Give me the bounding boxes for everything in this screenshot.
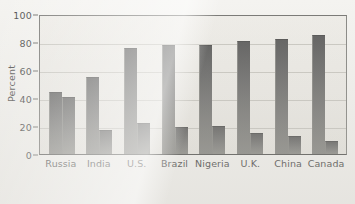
- plot-area: [39, 15, 347, 155]
- bar-group: [43, 16, 81, 154]
- y-tick-label: 60: [6, 66, 32, 77]
- x-tick-label: Russia: [42, 158, 80, 169]
- bar-group: [118, 16, 156, 154]
- bar: [237, 41, 250, 154]
- bar-group: [156, 16, 194, 154]
- y-axis-tick-labels: 020406080100: [4, 0, 32, 204]
- y-tick-label: 20: [6, 122, 32, 133]
- bar: [124, 48, 137, 154]
- bar: [325, 141, 338, 154]
- bar: [49, 92, 62, 154]
- bar: [137, 123, 150, 154]
- y-tick-mark: [33, 43, 38, 44]
- y-tick-mark: [33, 99, 38, 100]
- y-tick-mark: [33, 15, 38, 16]
- bar: [162, 45, 175, 154]
- bar: [312, 35, 325, 154]
- x-tick-label: Canada: [307, 158, 345, 169]
- bar: [62, 97, 75, 154]
- bar-group: [231, 16, 269, 154]
- y-tick-mark: [33, 71, 38, 72]
- bar-group: [81, 16, 119, 154]
- bar-group: [306, 16, 344, 154]
- bar: [86, 77, 99, 154]
- bar: [99, 130, 112, 154]
- x-tick-label: U.K.: [231, 158, 269, 169]
- bar-group: [269, 16, 307, 154]
- y-tick-label: 40: [6, 94, 32, 105]
- bar: [175, 127, 188, 154]
- bar-group: [194, 16, 232, 154]
- y-tick-label: 0: [6, 150, 32, 161]
- y-tick-mark: [33, 127, 38, 128]
- y-tick-label: 80: [6, 38, 32, 49]
- bar: [199, 45, 212, 154]
- bar-groups: [40, 16, 346, 154]
- y-tick-label: 100: [6, 10, 32, 21]
- y-tick-mark: [33, 155, 38, 156]
- bar: [275, 39, 288, 154]
- x-axis-tick-labels: RussiaIndiaU.S.BrazilNigeriaU.K.ChinaCan…: [39, 158, 347, 169]
- x-tick-label: U.S.: [118, 158, 156, 169]
- x-tick-label: Nigeria: [194, 158, 232, 169]
- bar: [250, 133, 263, 154]
- x-tick-label: India: [80, 158, 118, 169]
- bar: [212, 126, 225, 154]
- bar: [288, 136, 301, 154]
- x-tick-label: Brazil: [156, 158, 194, 169]
- x-tick-label: China: [269, 158, 307, 169]
- bar-chart: Percent 020406080100 RussiaIndiaU.S.Braz…: [0, 0, 355, 204]
